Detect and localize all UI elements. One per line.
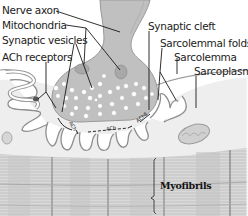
label-ach-receptors: ACh receptors (2, 51, 72, 63)
label-mitochondria: Mitochondria (2, 19, 67, 31)
label-nerve-axon: Nerve axon (2, 4, 59, 16)
label-sarcolemmal-folds: Sarcolemmal folds (160, 37, 248, 49)
label-myofibrils: Myofibrils (160, 180, 211, 192)
label-synaptic-cleft: Synaptic cleft (148, 20, 215, 32)
neuromuscular-junction-diagram: Nerve axon Mitochondria Synaptic vesicle… (0, 0, 248, 216)
label-synaptic-vesicles: Synaptic vesicles (2, 34, 87, 46)
muscle-mitochondrion-small (2, 132, 12, 144)
label-sarcolemma: Sarcolemma (174, 51, 237, 63)
label-sarcoplasm: Sarcoplasm (194, 65, 248, 77)
